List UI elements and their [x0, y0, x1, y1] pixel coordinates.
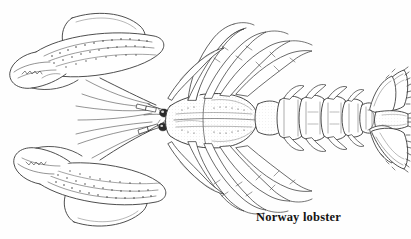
norway-lobster-illustration: [0, 0, 411, 239]
figure-caption: Norway lobster: [256, 210, 341, 225]
figure-page: Norway lobster: [0, 0, 411, 239]
carapace: [166, 94, 259, 148]
